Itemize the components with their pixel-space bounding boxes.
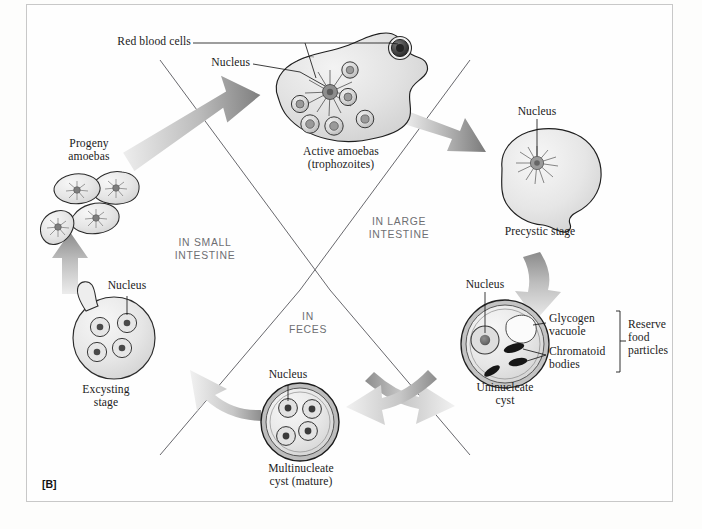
callout-nucleus-trophozoite: Nucleus: [188, 56, 250, 69]
stage-precystic: [502, 119, 601, 232]
stage-multinucleate-cyst: [261, 383, 339, 461]
panel-tag: [B]: [42, 478, 57, 490]
callout-reserve-food-particles: Reserve food particles: [628, 318, 684, 357]
callout-chromatoid-bodies: Chromatoid bodies: [549, 345, 619, 371]
arrow-uninucleate-to-multinucleate: [346, 370, 455, 425]
stage-excysting: [73, 282, 155, 379]
caption-uninucleate-cyst: Uninucleate cyst: [461, 381, 549, 407]
caption-trophozoite: Active amoebas (trophozoites): [286, 145, 396, 171]
progeny-amoeba: [71, 203, 119, 234]
amoeba-life-cycle-diagram: [0, 0, 702, 529]
callout-glycogen-vacuole: Glycogen vacuole: [549, 312, 617, 338]
caption-multinucleate-cyst: Multinucleate cyst (mature): [245, 462, 357, 488]
figure-canvas: Red blood cells Nucleus Active amoebas (…: [0, 0, 702, 529]
callout-nucleus-precystic: Nucleus: [506, 105, 568, 118]
region-label-in-feces: IN FECES: [278, 310, 338, 336]
uninucleate-cyst-glycogen-vacuole: [506, 315, 536, 343]
callout-nucleus-multinucleate-cyst: Nucleus: [257, 368, 319, 381]
caption-progeny-amoebas: Progeny amoebas: [49, 137, 129, 163]
progeny-amoeba: [54, 174, 100, 204]
callout-red-blood-cells: Red blood cells: [95, 35, 191, 48]
region-label-in-large-intestine: IN LARGE INTESTINE: [353, 215, 445, 241]
region-label-in-small-intestine: IN SMALL INTESTINE: [159, 236, 251, 262]
caption-excysting: Excysting stage: [66, 383, 146, 409]
arrow-progeny-to-trophozoite: [118, 73, 265, 172]
callout-nucleus-excysting: Nucleus: [96, 279, 158, 292]
callout-nucleus-uninucleate-cyst: Nucleus: [454, 278, 516, 291]
trophozoite-engulfed-red-blood-cell: [389, 37, 412, 60]
stage-progeny-amoebas: [40, 172, 139, 245]
caption-precystic: Precystic stage: [493, 225, 587, 238]
